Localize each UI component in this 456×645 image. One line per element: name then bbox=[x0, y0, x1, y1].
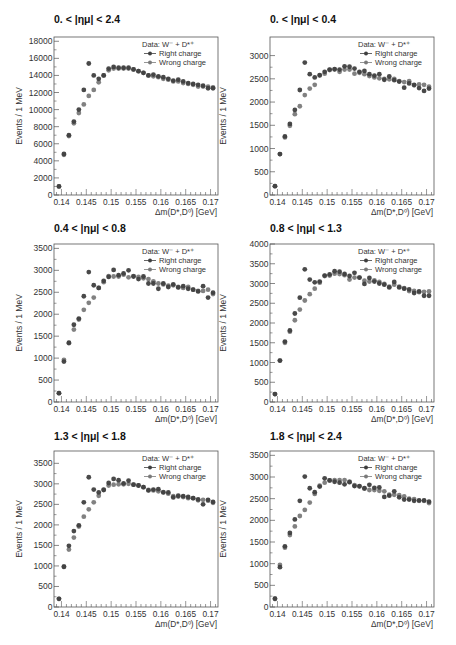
data-point bbox=[111, 64, 116, 69]
data-point bbox=[372, 73, 377, 78]
legend-entry: Right charge bbox=[375, 49, 418, 58]
data-point bbox=[312, 82, 317, 87]
data-point bbox=[297, 498, 302, 503]
y-axis-label: Events / 1 MeV bbox=[14, 294, 24, 352]
y-axis-label: Events / 1 MeV bbox=[218, 500, 228, 558]
data-point bbox=[91, 73, 96, 78]
svg-text:2000: 2000 bbox=[250, 318, 269, 328]
data-point bbox=[62, 359, 67, 364]
data-point bbox=[367, 276, 372, 281]
data-point bbox=[116, 273, 121, 278]
data-point bbox=[131, 67, 136, 72]
data-point bbox=[402, 80, 407, 85]
data-point bbox=[273, 184, 278, 189]
data-point bbox=[342, 64, 347, 69]
data-point bbox=[283, 544, 288, 549]
data-point bbox=[307, 500, 312, 505]
data-point bbox=[292, 524, 297, 529]
data-point bbox=[332, 67, 337, 72]
data-point bbox=[412, 82, 417, 87]
y-axis-label: Events / 1 MeV bbox=[14, 500, 24, 558]
legend-header: Data: W⁻ + D*⁺ bbox=[358, 40, 410, 49]
data-point bbox=[121, 271, 126, 276]
svg-text:2500: 2500 bbox=[34, 499, 53, 509]
legend-entry: Wrong charge bbox=[375, 472, 422, 481]
svg-text:0.16: 0.16 bbox=[153, 404, 170, 414]
svg-text:3500: 3500 bbox=[250, 450, 269, 460]
data-point bbox=[302, 298, 307, 303]
data-point bbox=[307, 292, 312, 297]
data-point bbox=[302, 60, 307, 65]
svg-text:0.165: 0.165 bbox=[391, 197, 412, 207]
data-point bbox=[91, 88, 96, 93]
svg-text:0.15: 0.15 bbox=[103, 609, 120, 619]
legend-header: Data: W⁻ + D*⁺ bbox=[142, 454, 194, 463]
data-point bbox=[201, 83, 206, 88]
data-point bbox=[81, 294, 86, 299]
y-axis: 0200040006000800010000120001400016000180… bbox=[29, 36, 59, 200]
scatter-plot: 05001000150020002500300035004000Events /… bbox=[216, 207, 444, 422]
svg-text:0.145: 0.145 bbox=[292, 609, 313, 619]
data-point bbox=[407, 497, 412, 502]
legend: Data: W⁻ + D*⁺Right chargeWrong charge bbox=[358, 40, 422, 67]
data-point bbox=[407, 287, 412, 292]
svg-text:0.17: 0.17 bbox=[418, 197, 435, 207]
svg-text:0.15: 0.15 bbox=[103, 404, 120, 414]
svg-text:2500: 2500 bbox=[250, 494, 269, 504]
data-point bbox=[352, 66, 357, 71]
svg-text:0.16: 0.16 bbox=[153, 609, 170, 619]
scatter-plot: 0500100015002000250030003500Events / 1 M… bbox=[216, 414, 444, 629]
data-point bbox=[292, 108, 297, 113]
data-point bbox=[151, 281, 156, 286]
data-point bbox=[342, 482, 347, 487]
svg-text:0: 0 bbox=[48, 397, 53, 407]
data-point bbox=[191, 496, 196, 501]
data-point bbox=[86, 270, 91, 275]
svg-text:18000: 18000 bbox=[29, 36, 53, 46]
data-point bbox=[211, 86, 216, 91]
data-point bbox=[402, 286, 407, 291]
data-point bbox=[337, 67, 342, 72]
svg-text:2500: 2500 bbox=[250, 74, 269, 84]
data-point bbox=[392, 280, 397, 285]
data-point bbox=[86, 94, 91, 99]
data-point bbox=[116, 478, 121, 483]
data-point bbox=[347, 64, 352, 69]
data-point bbox=[387, 285, 392, 290]
y-axis: 0500100015002000250030003500 bbox=[250, 450, 275, 612]
series-wrong-charge bbox=[273, 67, 432, 188]
svg-text:10000: 10000 bbox=[29, 105, 53, 115]
x-axis: 0.140.1450.150.1550.160.1650.17 bbox=[53, 601, 219, 619]
plot-panel-eta-0.4-0.8: 0.4 < |ημ| < 0.8 05001000150020002500300… bbox=[0, 207, 228, 414]
data-point bbox=[422, 82, 427, 87]
data-point bbox=[322, 476, 327, 481]
x-axis: 0.140.1450.150.1550.160.1650.17 bbox=[269, 601, 435, 619]
data-point bbox=[402, 497, 407, 502]
data-point bbox=[201, 497, 206, 502]
data-point bbox=[206, 86, 211, 91]
svg-text:0.14: 0.14 bbox=[53, 197, 70, 207]
data-point bbox=[86, 475, 91, 480]
data-point bbox=[392, 489, 397, 494]
data-point bbox=[81, 307, 86, 312]
data-point bbox=[146, 73, 151, 78]
data-point bbox=[427, 289, 432, 294]
data-point bbox=[412, 498, 417, 503]
legend-entry: Wrong charge bbox=[159, 265, 206, 274]
svg-text:500: 500 bbox=[38, 581, 52, 591]
svg-text:1000: 1000 bbox=[250, 144, 269, 154]
data-point bbox=[287, 531, 292, 536]
plot-panel-eta-0-0.4: 0. < |ημ| < 0.4 050010001500200025003000… bbox=[216, 0, 444, 207]
svg-text:0.15: 0.15 bbox=[319, 404, 336, 414]
svg-text:0.165: 0.165 bbox=[175, 609, 196, 619]
data-point bbox=[297, 88, 302, 93]
legend-header: Data: W⁻ + D*⁺ bbox=[142, 247, 194, 256]
data-point bbox=[176, 77, 181, 82]
svg-text:0.17: 0.17 bbox=[418, 404, 435, 414]
data-point bbox=[357, 275, 362, 280]
y-axis-label: Events / 1 MeV bbox=[218, 87, 228, 145]
data-point bbox=[352, 275, 357, 280]
data-point bbox=[106, 66, 111, 71]
data-point bbox=[96, 490, 101, 495]
series-right-charge bbox=[57, 61, 216, 189]
